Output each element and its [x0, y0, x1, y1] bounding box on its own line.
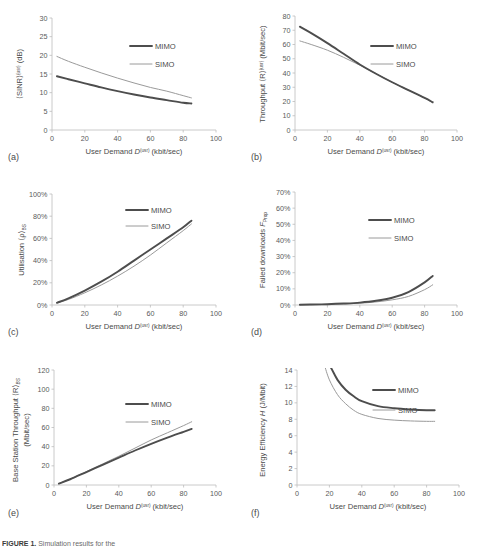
- legend: MIMOSIMO: [371, 42, 417, 69]
- legend-label-mimo: MIMO: [151, 206, 172, 215]
- legend: MIMOSIMO: [126, 400, 172, 427]
- y-axis-ticks: 02468101214: [285, 366, 298, 490]
- x-tick-label: 0: [52, 489, 56, 498]
- y-tick-label: 120: [38, 366, 50, 375]
- legend-label-mimo: MIMO: [394, 216, 415, 225]
- y-axis-label: Failed downloads FProp: [258, 212, 268, 288]
- x-axis-label: User Demand D(usr) (kbit/sec): [87, 502, 184, 511]
- y-tick-label: 40%: [33, 256, 48, 265]
- y-tick-label: 2: [289, 464, 293, 473]
- legend-label-simo: SIMO: [394, 234, 414, 243]
- series-line-mimo: [57, 221, 191, 303]
- chart-a: 051015202530020406080100MIMOSIMOUser Dem…: [0, 0, 243, 180]
- y-tick-label: 5: [44, 107, 48, 116]
- y-tick-label: 80: [42, 404, 50, 413]
- chart-d: 0%10%20%30%40%50%60%70%020406080100MIMOS…: [243, 180, 485, 358]
- x-axis-ticks: 020406080100: [50, 130, 222, 143]
- x-tick-label: 20: [323, 134, 331, 143]
- x-tick-label: 0: [50, 309, 54, 318]
- panel-label-c: (c): [8, 327, 19, 337]
- x-tick-label: 60: [147, 489, 155, 498]
- x-tick-label: 40: [114, 134, 122, 143]
- figure-caption-text: Simulation results for the: [38, 540, 115, 547]
- y-tick-label: 0: [287, 126, 291, 135]
- y-tick-label: 100%: [29, 190, 48, 199]
- x-tick-label: 0: [293, 309, 297, 318]
- y-axis-ticks: 0%10%20%30%40%50%60%70%: [276, 188, 295, 310]
- x-tick-label: 100: [210, 134, 222, 143]
- y-tick-label: 14: [285, 366, 293, 375]
- y-tick-label: 80: [283, 12, 291, 21]
- y-tick-label: 80%: [33, 212, 48, 221]
- x-tick-label: 20: [323, 309, 331, 318]
- panel-label-a: (a): [8, 152, 19, 162]
- series-line-mimo: [59, 429, 192, 484]
- legend: MIMOSIMO: [369, 216, 415, 243]
- chart-e: 020406080100120020406080100MIMOSIMOUser …: [0, 358, 243, 547]
- y-tick-label: 0: [289, 481, 293, 490]
- x-axis-ticks: 020406080100: [293, 130, 463, 143]
- x-tick-label: 0: [295, 489, 299, 498]
- x-tick-label: 40: [358, 489, 366, 498]
- chart-panel-c: 0%20%40%60%80%100%020406080100MIMOSIMOUs…: [0, 180, 243, 358]
- y-tick-label: 25: [40, 32, 48, 41]
- y-axis-ticks: 0%20%40%60%80%100%: [29, 190, 52, 310]
- y-tick-label: 15: [40, 70, 48, 79]
- x-tick-label: 20: [81, 309, 89, 318]
- y-tick-label: 0: [46, 481, 50, 490]
- x-tick-label: 40: [115, 489, 123, 498]
- legend-label-mimo: MIMO: [155, 42, 176, 51]
- y-tick-label: 40%: [276, 236, 291, 245]
- axes: [52, 18, 216, 130]
- y-tick-label: 10%: [276, 284, 291, 293]
- panel-label-e: (e): [8, 508, 19, 518]
- panel-label-f: (f): [251, 508, 260, 518]
- chart-panel-f: 02468101214020406080100MIMOSIMOUser Dema…: [243, 358, 485, 547]
- legend-label-simo: SIMO: [398, 406, 418, 415]
- legend-label-mimo: MIMO: [151, 400, 172, 409]
- y-tick-label: 40: [42, 442, 50, 451]
- x-tick-label: 80: [180, 489, 188, 498]
- y-tick-label: 10: [40, 88, 48, 97]
- panel-label-b: (b): [251, 152, 262, 162]
- x-tick-label: 100: [451, 134, 463, 143]
- y-tick-label: 0: [44, 126, 48, 135]
- y-tick-label: 50%: [276, 220, 291, 229]
- y-tick-label: 30%: [276, 252, 291, 261]
- legend-label-mimo: MIMO: [398, 386, 419, 395]
- x-tick-label: 0: [50, 134, 54, 143]
- chart-c: 0%20%40%60%80%100%020406080100MIMOSIMOUs…: [0, 180, 243, 358]
- x-axis-label: User Demand D(usr) (kbit/sec): [328, 147, 425, 156]
- legend-label-simo: SIMO: [151, 418, 171, 427]
- y-tick-label: 0%: [37, 301, 48, 310]
- y-tick-label: 60: [42, 423, 50, 432]
- x-tick-label: 60: [388, 134, 396, 143]
- y-tick-label: 8: [289, 415, 293, 424]
- y-tick-label: 30: [40, 14, 48, 23]
- y-axis-ticks: 051015202530: [40, 14, 53, 135]
- y-tick-label: 20: [40, 51, 48, 60]
- x-tick-label: 40: [114, 309, 122, 318]
- chart-panel-a: 051015202530020406080100MIMOSIMOUser Dem…: [0, 0, 243, 180]
- legend: MIMOSIMO: [373, 386, 419, 415]
- chart-panel-e: 020406080100120020406080100MIMOSIMOUser …: [0, 358, 243, 547]
- figure-panel-grid: 051015202530020406080100MIMOSIMOUser Dem…: [0, 0, 485, 547]
- x-axis-label: User Demand D(usr) (kbit/sec): [86, 322, 183, 331]
- x-tick-label: 0: [293, 134, 297, 143]
- x-axis-ticks: 020406080100: [293, 305, 463, 318]
- x-tick-label: 40: [356, 309, 364, 318]
- y-tick-label: 40: [283, 69, 291, 78]
- x-tick-label: 60: [146, 309, 154, 318]
- x-tick-label: 80: [421, 134, 429, 143]
- y-tick-label: 70: [283, 26, 291, 35]
- x-tick-label: 40: [356, 134, 364, 143]
- x-axis-ticks: 020406080100: [295, 485, 465, 498]
- x-axis-ticks: 020406080100: [52, 485, 222, 498]
- chart-panel-d: 0%10%20%30%40%50%60%70%020406080100MIMOS…: [243, 180, 485, 358]
- y-tick-label: 60%: [33, 234, 48, 243]
- legend-label-mimo: MIMO: [396, 42, 417, 51]
- x-tick-label: 80: [179, 309, 187, 318]
- legend: MIMOSIMO: [130, 42, 176, 69]
- series-line-mimo: [300, 276, 433, 305]
- x-axis-label: User Demand D(usr) (kbit/sec): [328, 322, 425, 331]
